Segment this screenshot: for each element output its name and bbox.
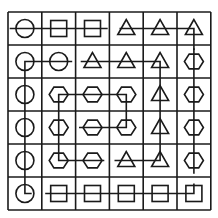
cell-r3-c4[interactable] [144,112,176,143]
cell-r4-c1[interactable] [43,145,75,176]
cell-r2-c0[interactable] [9,79,41,110]
cell-r5-c1[interactable] [43,178,75,209]
cell-r0-c4[interactable] [144,13,176,44]
cell-r0-c5[interactable] [178,13,210,44]
cell-r4-c2[interactable] [77,145,109,176]
cell-r4-c0[interactable] [9,145,41,176]
cell-r4-c5[interactable] [178,145,210,176]
cell-r3-c0[interactable] [9,112,41,143]
cell-r1-c2[interactable] [77,46,109,77]
cell-r2-c3[interactable] [110,79,142,110]
puzzle-board [0,0,218,218]
cell-r2-c5[interactable] [178,79,210,110]
cell-r0-c3[interactable] [110,13,142,44]
cell-r5-c2[interactable] [77,178,109,209]
cell-r5-c0[interactable] [9,178,41,209]
cell-r4-c4[interactable] [144,145,176,176]
cell-r3-c1[interactable] [43,112,75,143]
cell-r1-c3[interactable] [110,46,142,77]
cell-r0-c2[interactable] [77,13,109,44]
cell-r5-c3[interactable] [110,178,142,209]
cell-r0-c1[interactable] [43,13,75,44]
cell-r1-c1[interactable] [43,46,75,77]
cell-r0-c0[interactable] [9,13,41,44]
cell-r5-c4[interactable] [144,178,176,209]
cell-r3-c2[interactable] [77,112,109,143]
cell-r3-c3[interactable] [110,112,142,143]
cell-r1-c5[interactable] [178,46,210,77]
cell-r2-c1[interactable] [43,79,75,110]
cell-r4-c3[interactable] [110,145,142,176]
cell-r5-c5[interactable] [178,178,210,209]
cell-r2-c2[interactable] [77,79,109,110]
cell-r2-c4[interactable] [144,79,176,110]
cell-r1-c4[interactable] [144,46,176,77]
cell-r1-c0[interactable] [9,46,41,77]
cell-r3-c5[interactable] [178,112,210,143]
